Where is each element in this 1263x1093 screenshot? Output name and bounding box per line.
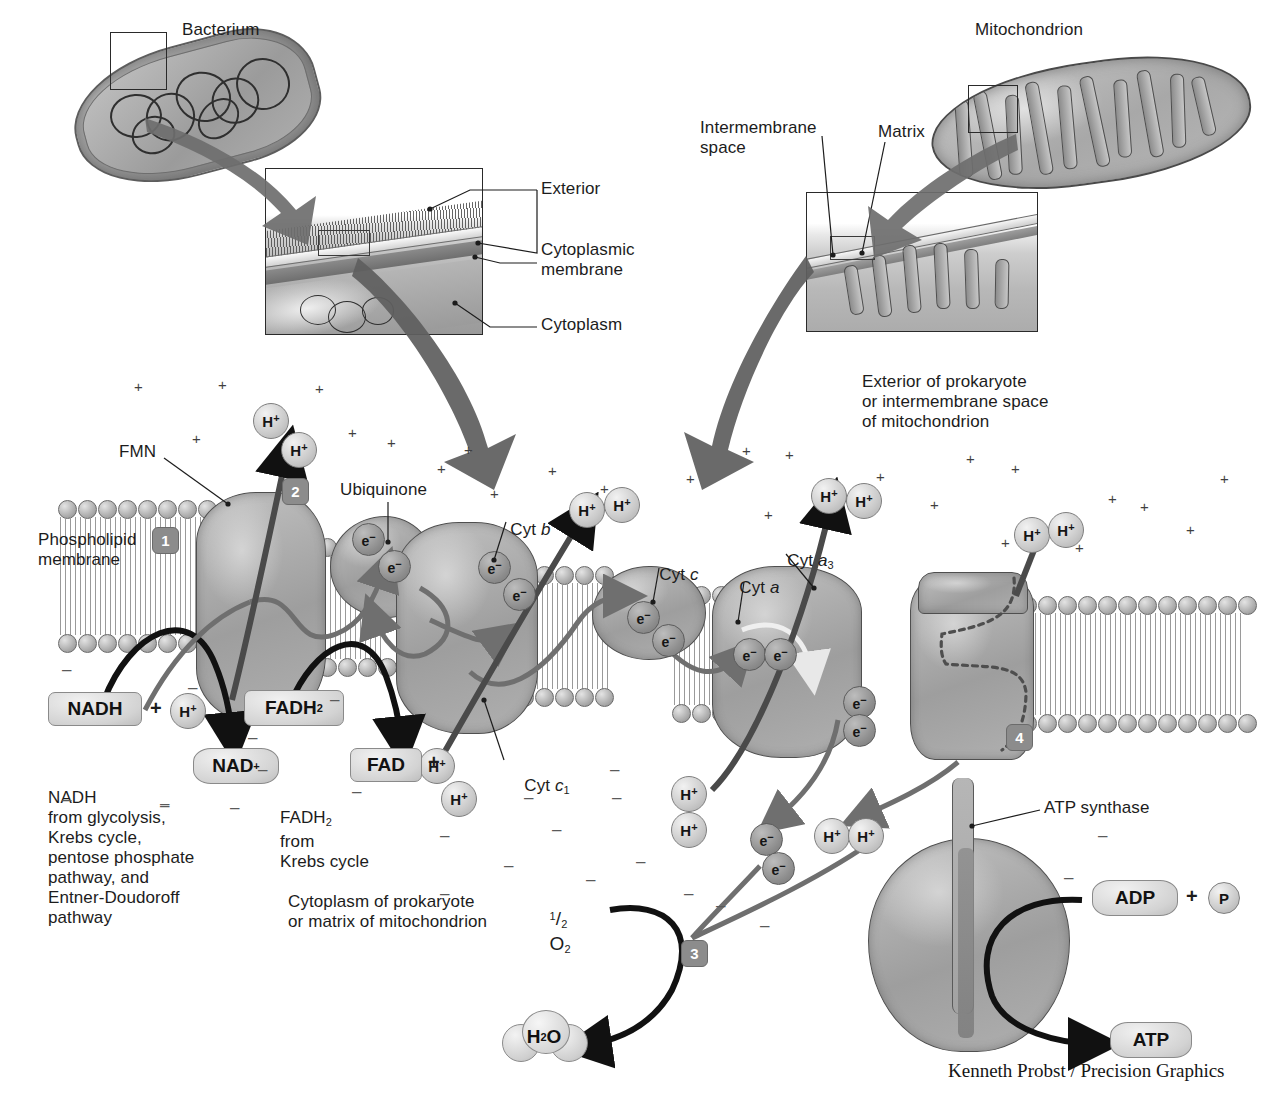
- fadh2-note-subscript: 2: [326, 816, 332, 828]
- charge-minus: –: [248, 728, 257, 748]
- diagram-canvas: Bacterium Exterior Cytoplasmic membrane …: [0, 0, 1263, 1093]
- arrow-electron-q-cycle: [430, 620, 505, 641]
- proton-bubble: H+: [569, 492, 605, 528]
- proton-label: H+: [820, 487, 837, 505]
- proton-label: H+: [578, 501, 595, 519]
- half-o2-numerator: 1: [550, 910, 556, 922]
- proton-label: H+: [262, 412, 279, 430]
- arrow-electron-complex4-down: [772, 720, 838, 822]
- charge-minus: –: [62, 660, 71, 680]
- proton-label: H+: [680, 821, 697, 839]
- molecule-half-oxygen: 1/2 O2: [528, 886, 571, 979]
- electron-label: e−: [361, 531, 375, 549]
- leader-cyt-b: [492, 520, 552, 590]
- fadh2-note-base: FADH: [280, 808, 326, 827]
- charge-minus: –: [636, 852, 645, 872]
- nad-base: NAD: [212, 755, 253, 777]
- proton-bubble: H+: [814, 818, 850, 854]
- step-badge-2: 2: [282, 478, 309, 505]
- proton-bubble: H+: [671, 776, 707, 812]
- electron-bubble: e−: [352, 523, 385, 556]
- charge-minus: –: [524, 788, 533, 808]
- proton-bubble: H+: [671, 812, 707, 848]
- fadh2-subscript: 2: [317, 702, 323, 714]
- leader-ubiquinone: [382, 500, 442, 570]
- charge-minus: –: [160, 796, 169, 816]
- proton-label: H+: [1057, 521, 1074, 539]
- proton-bubble: H+: [848, 818, 884, 854]
- molecule-fadh2: FADH2: [244, 690, 344, 726]
- arrow-proton-exit-atp-synthase: [858, 762, 958, 818]
- proton-label: H+: [179, 702, 196, 720]
- plus-sign-adp: +: [1186, 886, 1198, 906]
- proton-label: H+: [857, 827, 874, 845]
- charge-minus: –: [440, 884, 449, 904]
- proton-label: H+: [1023, 526, 1040, 544]
- leader-cyt-c1: [480, 698, 540, 778]
- proton-bubble: H+: [1014, 517, 1050, 553]
- step-badge-3: 3: [681, 940, 708, 967]
- arrow-electron-to-oxygen-left: [692, 866, 760, 938]
- proton-label: H+: [613, 496, 630, 514]
- water-base: H: [527, 1026, 541, 1048]
- charge-minus: –: [330, 690, 339, 710]
- charge-minus: –: [188, 678, 197, 698]
- leader-atp-synthase: [968, 800, 1058, 850]
- electron-bubble: e−: [843, 714, 876, 747]
- cyt-c1-italic: c: [555, 776, 564, 795]
- molecule-fad: FAD: [350, 748, 422, 782]
- charge-minus: –: [760, 916, 769, 936]
- charge-minus: –: [1064, 868, 1073, 888]
- half-o2-subscript: 2: [564, 943, 570, 955]
- electron-label: e−: [759, 831, 773, 849]
- electron-label: e−: [852, 694, 866, 712]
- proton-bubble: H+: [811, 478, 847, 514]
- label-cytoplasm-matrix-note: Cytoplasm of prokaryote or matrix of mit…: [288, 892, 487, 932]
- illustration-credit: Kenneth Probst / Precision Graphics: [948, 1060, 1225, 1082]
- arrow-electron-fmn-to-ubiquinone: [250, 565, 386, 637]
- half-o2-base: O: [550, 933, 565, 954]
- charge-minus: –: [716, 896, 725, 916]
- charge-minus: –: [230, 798, 239, 818]
- phosphate-label: P: [1219, 890, 1229, 907]
- proton-bubble: H+: [846, 483, 882, 519]
- charge-minus: –: [586, 870, 595, 890]
- charge-minus: –: [1098, 826, 1107, 846]
- water-tail: O: [547, 1026, 562, 1048]
- arrow-oxygen-to-water: [582, 908, 682, 1046]
- half-o2-denominator: 2: [561, 918, 567, 930]
- fadh2-note-rest: from Krebs cycle: [280, 832, 369, 871]
- arrow-adp-to-atp: [987, 900, 1098, 1044]
- label-fmn: FMN: [119, 442, 156, 462]
- arrow-electron-to-oxygen-right: [692, 836, 880, 938]
- electron-label: e−: [852, 722, 866, 740]
- proton-bubble: H+: [1048, 512, 1084, 548]
- label-ubiquinone: Ubiquinone: [340, 480, 427, 500]
- proton-label: H+: [680, 785, 697, 803]
- fadh2-base: FADH: [265, 697, 317, 719]
- molecule-water: H2O: [498, 1010, 590, 1064]
- molecule-atp: ATP: [1110, 1022, 1192, 1058]
- charge-minus: –: [612, 788, 621, 808]
- phosphate-bubble: P: [1208, 882, 1240, 914]
- proton-label: H+: [290, 441, 307, 459]
- plus-sign-fad: +: [428, 752, 440, 772]
- leader-cyt-a3: [784, 552, 854, 622]
- proton-label: H+: [855, 492, 872, 510]
- electron-label: e−: [771, 860, 785, 878]
- charge-minus: –: [258, 760, 267, 780]
- molecule-nadh: NADH: [48, 692, 142, 726]
- leader-fmn: [160, 450, 280, 540]
- charge-minus: –: [352, 782, 361, 802]
- charge-minus: –: [62, 790, 71, 810]
- charge-minus: –: [504, 856, 513, 876]
- proton-bubble-nadh: H+: [170, 693, 206, 729]
- charge-minus: –: [552, 820, 561, 840]
- leader-cyt-c: [645, 566, 705, 636]
- proton-bubble: H+: [253, 403, 289, 439]
- proton-bubble: H+: [441, 781, 477, 817]
- proton-label: H+: [823, 827, 840, 845]
- molecule-adp: ADP: [1092, 880, 1178, 916]
- plus-sign-nadh: +: [150, 698, 162, 718]
- electron-bubble: e−: [762, 852, 795, 885]
